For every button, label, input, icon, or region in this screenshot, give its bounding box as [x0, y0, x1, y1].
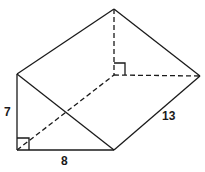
- base-label: 8: [61, 155, 68, 167]
- edge-right-lower: [114, 76, 200, 150]
- prism-diagram: [0, 0, 205, 172]
- height-label: 7: [4, 106, 11, 118]
- right-angle-marker-back: [114, 63, 125, 75]
- edge-top-right: [114, 9, 200, 76]
- edge-top-left: [17, 9, 114, 74]
- length-label: 13: [162, 110, 175, 122]
- hidden-edge-back-base: [114, 75, 200, 76]
